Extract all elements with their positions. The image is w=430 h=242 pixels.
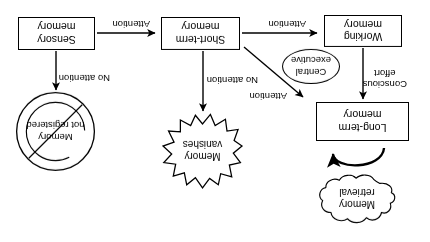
edge-label-short-term-to-working: Attention <box>269 19 307 30</box>
node-central-executive[interactable]: Centralexecutive <box>282 49 340 84</box>
diagram-figure: Sensorymemory Short-termmemory Workingme… <box>0 0 430 242</box>
node-central-executive-label: Centralexecutive <box>291 55 331 77</box>
node-memory-retrieval-label: Memoryretrieval <box>315 172 399 224</box>
node-memory-vanishes-label: Memoryvanishes <box>163 112 242 188</box>
node-sensory-memory[interactable]: Sensorymemory <box>18 17 95 50</box>
node-memory-retrieval[interactable]: Memoryretrieval <box>315 172 399 224</box>
edge-label-central-executive-to-long-term: Attention <box>250 91 288 102</box>
node-short-term-memory-label: Short-termmemory <box>176 21 226 46</box>
node-memory-not-registered[interactable]: Memorynot registered <box>15 91 96 172</box>
arrow-memory-retrieval-curve <box>333 148 384 165</box>
edge-label-sensory-to-short-term: Attention <box>113 19 151 30</box>
node-long-term-memory[interactable]: Long-termmemory <box>316 102 409 141</box>
edge-label-sensory-to-not-registered: No attention <box>59 73 110 84</box>
diagram-canvas: Sensorymemory Short-termmemory Workingme… <box>0 0 430 242</box>
node-working-memory[interactable]: Workingmemory <box>324 15 402 47</box>
node-working-memory-label: Workingmemory <box>344 19 382 44</box>
node-short-term-memory[interactable]: Short-termmemory <box>161 17 240 50</box>
node-sensory-memory-label: Sensorymemory <box>37 21 76 46</box>
edge-label-short-term-to-vanishes: No attention <box>207 75 258 86</box>
node-memory-not-registered-label: Memorynot registered <box>15 91 96 172</box>
node-memory-vanishes[interactable]: Memoryvanishes <box>163 112 242 188</box>
edge-label-working-to-long-term: Consciouseffort <box>363 68 407 90</box>
node-long-term-memory-label: Long-termmemory <box>339 109 387 134</box>
